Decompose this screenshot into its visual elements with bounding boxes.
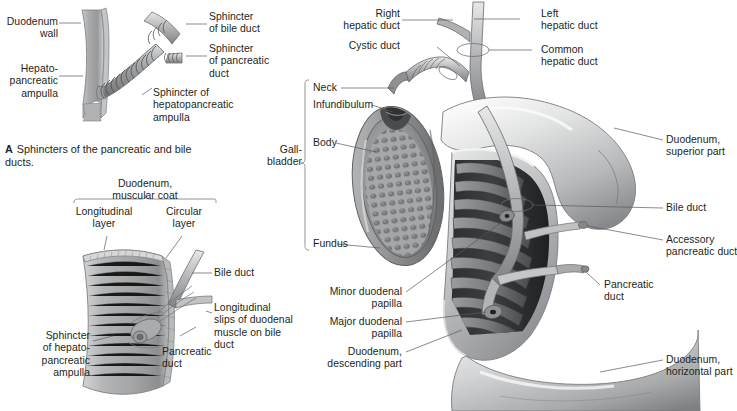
label-accessory-pancreatic-duct: Accessory pancreatic duct xyxy=(666,234,737,259)
label-infundibulum: Infundibulum xyxy=(313,99,389,111)
label-sphincter-of-pancreatic-duct: Sphincter of pancreatic duct xyxy=(209,43,301,80)
label-duodenum-descending-part: Duodenum, descending part xyxy=(294,346,402,371)
label-sphincter-hepatopancreatic-ampulla-panel-b: Sphincter of hepato- pancreatic ampulla xyxy=(0,330,90,380)
label-circular-layer: Circular layer xyxy=(152,206,216,231)
label-pancreatic-duct-panel-c: Pancreatic duct xyxy=(604,279,676,304)
label-duodenum-horizontal-part: Duodenum, horizontal part xyxy=(666,354,737,379)
label-gallbladder: Gall- bladder xyxy=(262,144,302,169)
label-longitudinal-layer: Longitudinal layer xyxy=(62,206,146,231)
label-fundus: Fundus xyxy=(313,238,361,250)
caption-letter: A xyxy=(5,143,13,155)
label-common-hepatic-duct: Common hepatic duct xyxy=(541,44,633,69)
label-body: Body xyxy=(313,137,357,149)
label-left-hepatic-duct: Left hepatic duct xyxy=(541,8,635,33)
label-bile-duct-panel-b: Bile duct xyxy=(214,267,298,279)
label-sphincter-of-hepatopancreatic-ampulla: Sphincter of hepatopancreatic ampulla xyxy=(153,87,269,124)
label-cystic-duct: Cystic duct xyxy=(320,40,400,52)
label-major-duodenal-papilla: Major duodenal papilla xyxy=(300,316,402,341)
label-duodenum-superior-part: Duodenum, superior part xyxy=(666,134,737,159)
label-minor-duodenal-papilla: Minor duodenal papilla xyxy=(300,286,402,311)
label-right-hepatic-duct: Right hepatic duct xyxy=(306,8,400,33)
label-bile-duct-panel-c: Bile duct xyxy=(666,202,736,214)
figure-root: Duodenum wall Hepato- pancreatic ampulla… xyxy=(0,0,737,411)
label-sphincter-of-bile-duct: Sphincter of bile duct xyxy=(209,11,301,36)
caption-text: Sphincters of the pancreatic and bile du… xyxy=(5,143,191,168)
label-hepatopancreatic-ampulla: Hepato- pancreatic ampulla xyxy=(0,63,58,100)
caption-panel-a: ASphincters of the pancreatic and bile d… xyxy=(5,143,267,169)
label-duodenum-muscular-coat: Duodenum, muscular coat xyxy=(95,178,195,203)
label-neck: Neck xyxy=(313,82,361,94)
label-duodenum-wall: Duodenum wall xyxy=(2,16,58,41)
label-pancreatic-duct-panel-b: Pancreatic duct xyxy=(162,346,232,371)
